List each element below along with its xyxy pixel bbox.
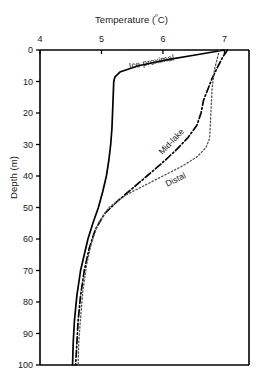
- y-tick-label: 60: [0, 234, 33, 244]
- y-tick-label: 20: [0, 108, 33, 118]
- axes: [40, 50, 249, 365]
- x-tick-label: 6: [160, 34, 165, 44]
- x-tick-label: 4: [37, 34, 42, 44]
- y-tick-label: 50: [0, 203, 33, 213]
- y-tick-label: 100: [0, 360, 33, 370]
- series-line-distal: [78, 50, 219, 365]
- y-tick-label: 30: [0, 140, 33, 150]
- y-tick-label: 90: [0, 329, 33, 339]
- y-tick-label: 10: [0, 77, 33, 87]
- y-tick-label: 40: [0, 171, 33, 181]
- plot-canvas: [0, 0, 263, 381]
- x-tick-label: 7: [222, 34, 227, 44]
- x-tick-label: 5: [99, 34, 104, 44]
- series-line-ice-proximal: [73, 50, 225, 365]
- temperature-depth-profile-chart: Temperature (ºC) Depth (m) 4567 01020304…: [0, 0, 263, 381]
- y-tick-label: 0: [0, 45, 33, 55]
- y-tick-label: 80: [0, 297, 33, 307]
- y-tick-label: 70: [0, 266, 33, 276]
- data-series-group: [73, 50, 228, 365]
